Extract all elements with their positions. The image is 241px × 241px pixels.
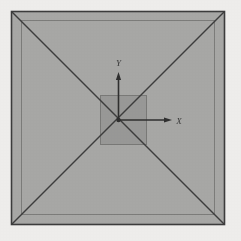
origin-point xyxy=(116,118,120,122)
pyramid-plan-view-diagram: X Y xyxy=(0,0,241,241)
figure-root: X Y xyxy=(0,0,241,241)
x-axis-label: X xyxy=(175,116,182,126)
